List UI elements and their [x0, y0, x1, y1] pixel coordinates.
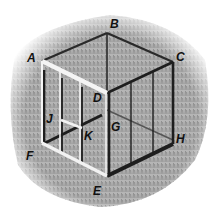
label-K: K: [84, 129, 94, 143]
label-F: F: [26, 149, 34, 163]
label-B: B: [110, 17, 119, 31]
label-G: G: [111, 120, 120, 134]
label-J: J: [46, 112, 53, 126]
label-H: H: [176, 132, 185, 146]
label-A: A: [26, 51, 36, 65]
cube-frame-illustration: A B C D J K G H F E: [0, 0, 222, 215]
label-C: C: [176, 50, 185, 64]
label-D: D: [93, 91, 102, 105]
label-E: E: [93, 184, 102, 198]
cube-frame-figure: A B C D J K G H F E: [0, 0, 222, 215]
